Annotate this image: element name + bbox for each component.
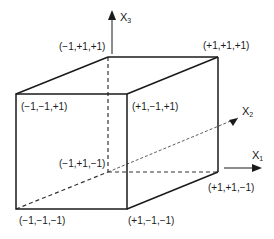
axis-label-x1: X1: [252, 150, 263, 162]
vertex-label: (−1,+1,+1): [59, 42, 105, 52]
x3-arrowhead-icon: [108, 10, 116, 20]
visible-edges: [16, 57, 218, 209]
axis-label-x2: X2: [242, 106, 253, 118]
hidden-edges: [16, 57, 218, 209]
cube-diagram: [0, 0, 274, 239]
vertex-label: (+1,−1,−1): [128, 216, 174, 226]
vertex-label: (−1,−1,−1): [19, 216, 65, 226]
vertex-label: (−1,−1,+1): [21, 102, 67, 112]
vertex-label: (+1,−1,+1): [132, 102, 178, 112]
x1-arrowhead-icon: [252, 164, 262, 172]
vertex-label: (+1,+1,+1): [203, 41, 249, 51]
x2-arrowhead-icon: [229, 118, 238, 126]
axis-label-x3: X3: [120, 12, 131, 24]
vertex-label: (+1,+1,−1): [208, 183, 254, 193]
vertex-label: (−1,+1,−1): [59, 159, 105, 169]
